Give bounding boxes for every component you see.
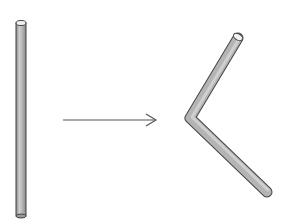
diagram-svg bbox=[0, 0, 291, 222]
transform-arrow bbox=[63, 114, 156, 126]
diagram-canvas bbox=[0, 0, 291, 222]
straight-rod bbox=[16, 21, 26, 219]
bent-rod bbox=[190, 32, 268, 192]
